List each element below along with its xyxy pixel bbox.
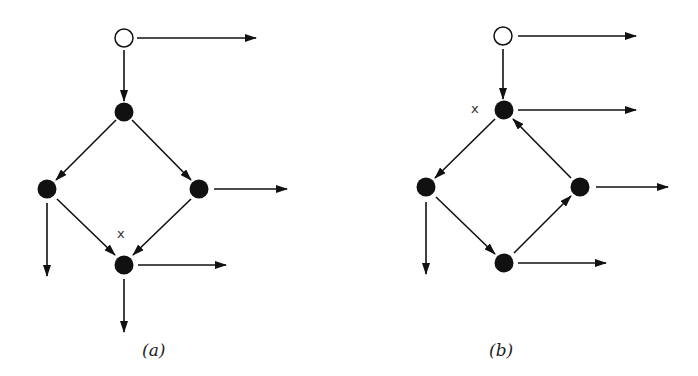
node-bottom <box>495 254 514 273</box>
figure-canvas: x (a) x (b) <box>0 0 698 376</box>
node-left <box>417 178 436 197</box>
node-right <box>190 180 209 199</box>
edge-top-to-left <box>56 120 116 180</box>
edge-left-to-bottom <box>57 199 115 255</box>
edge-left-to-bottom <box>436 197 495 254</box>
entry-node <box>115 29 133 47</box>
node-top <box>115 103 134 122</box>
marker-x-label: x <box>117 226 125 241</box>
caption-a: (a) <box>142 340 165 360</box>
marker-x-label: x <box>471 101 479 116</box>
edge-bottom-to-right <box>514 196 571 253</box>
edge-right-to-bottom <box>133 199 191 255</box>
node-bottom <box>115 256 134 275</box>
entry-node <box>494 27 512 45</box>
node-left <box>38 180 57 199</box>
node-right <box>571 178 590 197</box>
panel-a: x (a) <box>38 29 288 360</box>
edge-top-to-right <box>132 120 191 180</box>
edge-right-to-top <box>513 119 571 178</box>
edge-top-to-left <box>435 119 495 178</box>
node-top <box>495 101 514 120</box>
caption-b: (b) <box>489 340 513 360</box>
panel-b: x (b) <box>417 27 669 360</box>
